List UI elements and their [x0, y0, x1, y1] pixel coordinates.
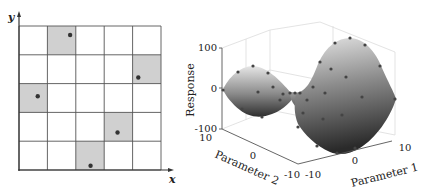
p1-tick-label: -10 — [305, 169, 321, 180]
surface-sample-point — [278, 98, 281, 101]
surface-sample-point — [323, 91, 326, 94]
surface-sample-point — [344, 75, 347, 78]
surface-sample-point — [251, 64, 254, 67]
surface-sample-point — [288, 91, 291, 94]
surface-sample-point — [256, 90, 259, 93]
surface-sample-point — [321, 117, 324, 120]
p2-tick-label: 0 — [250, 150, 256, 161]
sample-point — [68, 33, 72, 37]
sampling-grid-panel: y x — [7, 11, 176, 186]
surface-sample-point — [311, 85, 314, 88]
surface-sample-point — [296, 125, 299, 128]
surface-sample-point — [363, 43, 366, 46]
surface-sample-point — [360, 95, 363, 98]
sample-point — [36, 94, 40, 98]
sample-point — [136, 75, 140, 79]
surface-sample-point — [236, 70, 239, 73]
sample-point — [88, 163, 92, 167]
p1-axis-label: Parameter 1 — [350, 161, 420, 190]
z-tick-label: 100 — [198, 42, 217, 53]
surface-sample-point — [301, 111, 304, 114]
surface-left-lobe — [223, 66, 296, 117]
shaded-cell — [47, 26, 75, 55]
z-axis-label: Response — [184, 63, 197, 116]
surface-sample-point — [378, 64, 381, 67]
p2-tick-label: -10 — [284, 169, 300, 180]
surface-sample-point — [318, 60, 321, 63]
sample-point — [115, 130, 119, 134]
surface-plot-panel: 100 0 -100 Response 10 0 -10 Parameter 2… — [184, 22, 420, 190]
surface-right-lobe — [295, 38, 396, 154]
y-axis-arrow-icon — [17, 11, 21, 17]
surface-sample-point — [271, 85, 274, 88]
surface-sample-point — [281, 92, 284, 95]
p2-axis-label: Parameter 2 — [213, 148, 281, 188]
x-axis-label: x — [168, 173, 176, 186]
shaded-cells — [19, 26, 161, 170]
surface-sample-point — [340, 113, 343, 116]
z-tick-label: 0 — [211, 83, 217, 94]
p1-tick-label: 10 — [399, 142, 412, 153]
surface-sample-point — [393, 97, 396, 100]
shaded-cell — [104, 112, 132, 141]
surface-sample-point — [260, 115, 263, 118]
surface-sample-point — [315, 144, 318, 147]
surface-sample-point — [348, 36, 351, 39]
surface-sample-point — [266, 71, 269, 74]
shaded-cell — [133, 55, 161, 84]
surface-sample-point — [353, 146, 356, 149]
surface-sample-point — [305, 98, 308, 101]
shaded-cell — [19, 84, 47, 113]
surface-sample-point — [298, 91, 301, 94]
figure: y x — [0, 0, 423, 194]
x-axis-arrow-icon — [168, 168, 174, 172]
p1-tick-label: 0 — [352, 155, 358, 166]
surface-sample-point — [240, 107, 243, 110]
surface-sample-point — [293, 91, 296, 94]
surface-sample-point — [329, 67, 332, 70]
p2-tick-label: 10 — [199, 132, 212, 143]
surface-sample-point — [333, 41, 336, 44]
y-axis-label: y — [7, 11, 16, 24]
